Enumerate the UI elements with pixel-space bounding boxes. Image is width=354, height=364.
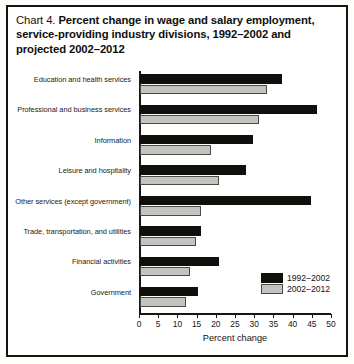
bar-series-2002-2012	[140, 297, 186, 307]
x-tick	[312, 314, 313, 318]
x-tick	[158, 314, 159, 318]
chart-legend: 1992–2002 2002–2012	[261, 272, 330, 294]
category-label: Leisure and hospitality	[0, 166, 131, 175]
bar-series-1992-2002	[140, 105, 317, 115]
chart-row: Education and health services	[0, 71, 354, 101]
x-tick	[197, 314, 198, 318]
x-tick-label: 30	[244, 319, 264, 329]
x-axis-label: Percent change	[139, 333, 331, 343]
x-tick	[216, 314, 217, 318]
bar-series-2002-2012	[140, 85, 267, 95]
chart-row: Trade, transportation, and utilities	[0, 223, 354, 253]
x-tick-label: 45	[302, 319, 322, 329]
legend-label-2002-2012: 2002–2012	[287, 284, 330, 294]
chart-title: Chart 4. Percent change in wage and sala…	[16, 13, 338, 56]
x-tick	[254, 314, 255, 318]
bar-series-2002-2012	[140, 115, 259, 125]
legend-swatch-2002-2012	[261, 284, 283, 294]
bar-series-1992-2002	[140, 287, 198, 297]
category-label: Other services (except government)	[0, 197, 131, 206]
x-tick-label: 35	[263, 319, 283, 329]
bar-series-2002-2012	[140, 237, 196, 247]
x-tick-label: 50	[321, 319, 341, 329]
bar-series-2002-2012	[140, 206, 201, 216]
x-tick-label: 40	[283, 319, 303, 329]
chart-title-prefix: Chart 4.	[16, 14, 55, 26]
bar-series-1992-2002	[140, 226, 201, 236]
x-tick	[273, 314, 274, 318]
chart-row: Professional and business services	[0, 101, 354, 131]
category-label: Trade, transportation, and utilities	[0, 227, 131, 236]
bar-series-2002-2012	[140, 176, 219, 186]
bar-series-1992-2002	[140, 196, 311, 206]
x-tick-label: 25	[225, 319, 245, 329]
bar-series-2002-2012	[140, 267, 190, 277]
legend-swatch-1992-2002	[261, 273, 283, 283]
bar-series-1992-2002	[140, 74, 282, 84]
chart-row: Information	[0, 132, 354, 162]
x-tick	[331, 314, 332, 318]
x-tick	[235, 314, 236, 318]
chart-row: Other services (except government)	[0, 193, 354, 223]
x-tick	[177, 314, 178, 318]
chart-figure: Chart 4. Percent change in wage and sala…	[0, 0, 354, 364]
x-tick	[139, 314, 140, 318]
x-tick-label: 15	[187, 319, 207, 329]
category-label: Information	[0, 136, 131, 145]
x-tick	[293, 314, 294, 318]
legend-item-series-a: 1992–2002	[261, 272, 330, 283]
x-tick-label: 10	[167, 319, 187, 329]
x-tick-label: 0	[129, 319, 149, 329]
category-label: Education and health services	[0, 75, 131, 84]
chart-row: Leisure and hospitality	[0, 162, 354, 192]
category-label: Financial activities	[0, 257, 131, 266]
x-tick-label: 5	[148, 319, 168, 329]
legend-label-1992-2002: 1992–2002	[287, 273, 330, 283]
chart-title-main: Percent change in wage and salary employ…	[16, 14, 314, 55]
category-label: Government	[0, 288, 131, 297]
bar-series-1992-2002	[140, 257, 219, 267]
bar-series-2002-2012	[140, 145, 211, 155]
bar-series-1992-2002	[140, 165, 246, 175]
legend-item-series-b: 2002–2012	[261, 283, 330, 294]
bar-series-1992-2002	[140, 135, 253, 145]
category-label: Professional and business services	[0, 105, 131, 114]
x-tick-label: 20	[206, 319, 226, 329]
